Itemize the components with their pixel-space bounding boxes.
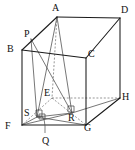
vertex-label-D: D xyxy=(121,5,128,15)
vertex-label-H: H xyxy=(122,92,129,102)
line-A-R xyxy=(57,17,72,113)
edge-A-D xyxy=(57,17,120,18)
vertex-label-G: G xyxy=(84,123,91,133)
vertex-label-P: P xyxy=(24,29,30,39)
construction-lines-group xyxy=(22,17,120,125)
line-P-S xyxy=(31,39,37,117)
vertex-label-Q: Q xyxy=(42,136,49,146)
vertex-label-B: B xyxy=(7,44,14,54)
geometry-figure: A D P B C E H S R F G Q xyxy=(0,0,135,150)
vertex-label-R: R xyxy=(68,113,75,123)
line-R-H xyxy=(72,98,120,113)
vertex-label-A: A xyxy=(52,3,59,13)
vertex-label-S: S xyxy=(24,108,30,118)
edge-G-H xyxy=(86,98,120,125)
cube-diagram-svg xyxy=(0,0,135,150)
vertex-label-E: E xyxy=(44,88,50,98)
vertex-label-C: C xyxy=(88,49,95,59)
vertex-label-F: F xyxy=(5,121,11,131)
edge-B-C xyxy=(22,50,86,58)
